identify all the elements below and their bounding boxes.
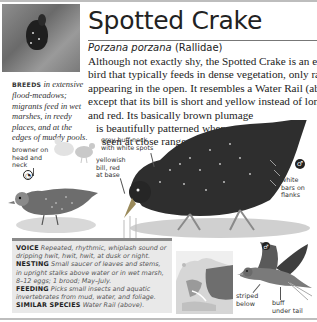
breeds-text: in extensive flood-meadows; migrants fee…: [12, 79, 88, 142]
top-rule: [0, 0, 317, 2]
label-white-bars: white bars on flanks: [281, 177, 305, 200]
intro-line: bird that typically feeds in dense veget…: [88, 68, 317, 81]
species-title: Spotted Crake: [88, 6, 262, 35]
breeds-label: BREEDS: [12, 81, 41, 88]
voice-entry: VOICE Repeated, rhythmic, whiplash sound…: [16, 244, 168, 260]
latin-name: Porzana porzana (Rallidae): [88, 42, 223, 53]
voice-text: Repeated, rhythmic, whiplash sound or dr…: [16, 244, 166, 260]
leader-line: [280, 287, 281, 300]
size-silhouettes-icon: [50, 135, 100, 165]
feeding-label: FEEDING: [16, 285, 49, 293]
intro-line: appearing in the open. It resembles a Wa…: [88, 82, 317, 95]
female-bird-illustration: [6, 175, 106, 235]
leader-line: [33, 168, 34, 176]
label-grey-buff-neck: grey-buff neck with white spots: [101, 137, 153, 152]
intro-line: Although not exactly shy, the Spotted Cr…: [88, 55, 317, 68]
latin-binomial: Porzana porzana: [88, 42, 172, 53]
flight-male-symbol-icon: ♂: [263, 243, 268, 250]
feeding-entry: FEEDING Picks small insects and aquatic …: [16, 285, 168, 301]
female-symbol-icon: ◔: [23, 170, 33, 180]
label-buff-under-tail: buff under tail: [272, 300, 303, 315]
breeds-note: BREEDS in extensive flood-meadows; migra…: [12, 79, 88, 142]
photo-spot: [32, 32, 34, 34]
label-striped-below: striped below: [236, 293, 258, 308]
info-box: VOICE Repeated, rhythmic, whiplash sound…: [12, 238, 172, 313]
photo-spot: [30, 42, 32, 44]
similar-label: SIMILAR SPECIES: [16, 301, 81, 309]
nesting-entry: NESTING Small saucer of leaves and stems…: [16, 260, 168, 285]
label-yellowish-bill: yellowish bill, red at base: [96, 157, 126, 180]
male-symbol-icon: ♂: [295, 159, 305, 169]
voice-label: VOICE: [16, 244, 39, 252]
intro-line: except that its bill is short and yellow…: [88, 95, 317, 108]
photo-bird-body: [26, 20, 48, 50]
nesting-label: NESTING: [16, 260, 49, 268]
photo-spot: [38, 38, 40, 40]
similar-entry: SIMILAR SPECIES Water Rail (above).: [16, 301, 168, 309]
bottom-rule: [0, 318, 317, 320]
photo-bird-head: [38, 14, 46, 26]
family-name: (Rallidae): [175, 42, 223, 53]
similar-text: Water Rail (above).: [83, 301, 145, 309]
range-map: [176, 251, 233, 314]
habitat-photo: [2, 4, 80, 72]
label-browner-head: browner on head and neck: [12, 147, 48, 170]
title-rule: [88, 40, 317, 41]
